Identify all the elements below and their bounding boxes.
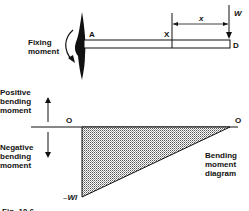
positive-moment-label: Positive bending moment <box>0 88 31 115</box>
distance-label: x <box>199 14 203 23</box>
up-arrow-icon <box>45 97 51 103</box>
load-label: W <box>234 9 242 18</box>
positive-line1: Positive <box>0 88 31 97</box>
title-line3: diagram <box>205 169 237 178</box>
positive-line2: bending <box>0 97 31 106</box>
diagram-title: Bending moment diagram <box>205 151 237 178</box>
down-arrow-icon <box>45 152 51 158</box>
origin-right-label: O <box>235 116 241 125</box>
fixing-moment-label: Fixing moment <box>28 38 59 56</box>
beam <box>84 40 230 48</box>
figure-caption: Fig. 10.6 <box>2 207 34 211</box>
fixing-moment-line2: moment <box>28 47 59 56</box>
positive-line3: moment <box>0 106 31 115</box>
origin-left-label: O <box>66 116 72 125</box>
title-line1: Bending <box>205 151 237 160</box>
cantilever-diagram <box>0 0 249 211</box>
negative-line3: moment <box>0 161 33 170</box>
fixing-moment-arrow <box>66 30 73 60</box>
min-value-label: –Wl <box>63 193 77 202</box>
point-a-label: A <box>89 30 95 39</box>
point-x-label: X <box>164 30 169 39</box>
fixing-moment-line1: Fixing <box>28 38 59 47</box>
point-d-label: D <box>233 41 239 50</box>
title-line2: moment <box>205 160 237 169</box>
negative-line2: bending <box>0 152 33 161</box>
negative-line1: Negative <box>0 143 33 152</box>
negative-moment-label: Negative bending moment <box>0 143 33 170</box>
load-arrow-icon <box>226 32 232 39</box>
